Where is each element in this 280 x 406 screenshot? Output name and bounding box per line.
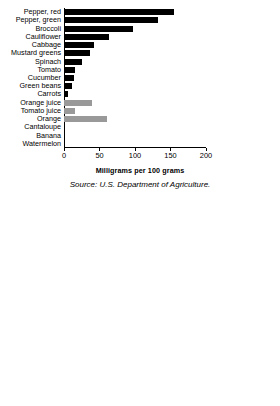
bar-row: Cauliflower bbox=[64, 33, 206, 41]
bar bbox=[64, 116, 107, 122]
category-label: Tomato bbox=[37, 66, 61, 73]
bar bbox=[64, 83, 72, 89]
bar-row: Tomato juice bbox=[64, 107, 206, 115]
bar-row: Spinach bbox=[64, 57, 206, 65]
category-label: Cucumber bbox=[28, 74, 61, 81]
figure-vitamin-c-range-bar: LettuceCucumberBananaGreen beansPotatoTo… bbox=[0, 200, 280, 406]
document-page: Pepper, redPepper, greenBroccoliCauliflo… bbox=[0, 0, 280, 406]
source-caption-top: Source: U.S. Department of Agriculture. bbox=[0, 180, 280, 189]
bar bbox=[64, 50, 90, 56]
category-label: Broccoli bbox=[35, 25, 61, 32]
bar-row: Banana bbox=[64, 132, 206, 140]
x-tick: 50 bbox=[99, 148, 100, 151]
category-label: Carrots bbox=[37, 91, 61, 98]
bar-row: Cantaloupe bbox=[64, 123, 206, 131]
bar bbox=[64, 100, 92, 106]
bar bbox=[64, 75, 74, 81]
bar-row: Cucumber bbox=[64, 74, 206, 82]
x-tick-label: 50 bbox=[95, 152, 103, 159]
bar-row: Carrots bbox=[64, 90, 206, 98]
x-tick: 150 bbox=[170, 148, 171, 151]
bar-row: Orange juice bbox=[64, 99, 206, 107]
x-tick: 100 bbox=[135, 148, 136, 151]
x-tick-label: 150 bbox=[164, 152, 176, 159]
bar bbox=[64, 34, 109, 40]
category-label: Cauliflower bbox=[25, 33, 61, 40]
figure-vitamin-c-simple-bar: Pepper, redPepper, greenBroccoliCauliflo… bbox=[0, 0, 280, 200]
bar-row: Watermelon bbox=[64, 140, 206, 148]
bar bbox=[64, 9, 174, 15]
bar-row: Pepper, red bbox=[64, 8, 206, 16]
category-label: Pepper, green bbox=[16, 17, 61, 24]
bar bbox=[64, 26, 133, 32]
bar-row: Mustard greens bbox=[64, 49, 206, 57]
x-tick-label: 0 bbox=[62, 152, 66, 159]
category-label: Tomato juice bbox=[21, 107, 61, 114]
x-tick: 0 bbox=[64, 148, 65, 151]
bar-row: Green beans bbox=[64, 82, 206, 90]
bar bbox=[64, 59, 82, 65]
bar-row: Pepper, green bbox=[64, 16, 206, 24]
category-label: Banana bbox=[36, 132, 61, 139]
category-label: Watermelon bbox=[23, 140, 61, 147]
bar bbox=[64, 42, 94, 48]
x-tick-label: 100 bbox=[129, 152, 141, 159]
category-label: Cantaloupe bbox=[24, 124, 61, 131]
bar-rows-top: Pepper, redPepper, greenBroccoliCauliflo… bbox=[64, 8, 206, 148]
category-label: Pepper, red bbox=[24, 9, 61, 16]
category-label: Mustard greens bbox=[11, 50, 61, 57]
bar-row: Broccoli bbox=[64, 24, 206, 32]
bar-row: Cabbage bbox=[64, 41, 206, 49]
x-tick-label: 200 bbox=[200, 152, 212, 159]
bar bbox=[64, 91, 68, 97]
bar-row: Tomato bbox=[64, 66, 206, 74]
plot-area-top: Pepper, redPepper, greenBroccoliCauliflo… bbox=[64, 8, 206, 148]
x-tick: 200 bbox=[206, 148, 207, 151]
bar bbox=[64, 67, 75, 73]
category-label: Green beans bbox=[19, 83, 61, 90]
bar bbox=[64, 108, 75, 114]
category-label: Spinach bbox=[35, 58, 61, 65]
bar-row: Orange bbox=[64, 115, 206, 123]
bar bbox=[64, 17, 158, 23]
category-label: Cabbage bbox=[32, 41, 61, 48]
x-axis-title-top: Milligrams per 100 grams bbox=[0, 166, 280, 175]
category-label: Orange juice bbox=[20, 99, 61, 106]
category-label: Orange bbox=[37, 116, 61, 123]
